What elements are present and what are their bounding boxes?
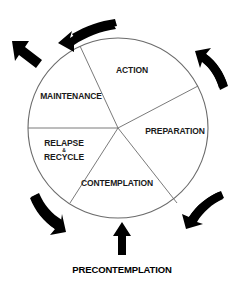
- stage-label-action: ACTION: [116, 66, 148, 75]
- arrow-top-left-exit-icon: [12, 41, 42, 68]
- recycle-line: RECYCLE: [44, 152, 84, 162]
- stages-of-change-diagram: ACTION PREPARATION CONTEMPLATION RELAPSE…: [0, 0, 241, 287]
- arrow-top-right-icon: [195, 48, 228, 90]
- stage-label-precontemplation: PRECONTEMPLATION: [72, 264, 171, 275]
- arrow-bottom-right-icon: [182, 191, 224, 229]
- stage-label-maintenance: MAINTENANCE: [40, 92, 102, 101]
- stage-label-contemplation: CONTEMPLATION: [81, 179, 153, 188]
- wheel-graphic: [0, 0, 241, 287]
- stage-label-relapse-recycle: RELAPSE & RECYCLE: [44, 139, 84, 161]
- arrow-bottom-left-icon: [30, 193, 66, 235]
- stage-label-preparation: PREPARATION: [145, 127, 205, 136]
- arrow-bottom-entry-icon: [113, 222, 131, 255]
